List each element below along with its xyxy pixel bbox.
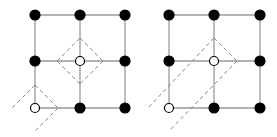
filled-node [75, 103, 85, 113]
lattice-diagram [0, 0, 277, 137]
open-node [210, 57, 219, 66]
right-panel [148, 10, 265, 130]
filled-node [120, 10, 130, 20]
dashed-line [170, 61, 237, 130]
filled-node [120, 103, 130, 113]
filled-node [75, 10, 85, 20]
filled-node [164, 56, 174, 66]
filled-node [120, 56, 130, 66]
left-panel [12, 10, 130, 131]
filled-node [209, 103, 219, 113]
filled-node [209, 10, 219, 20]
filled-node [255, 56, 265, 66]
open-node [76, 57, 85, 66]
filled-node [255, 103, 265, 113]
filled-node [255, 10, 265, 20]
open-node [165, 104, 174, 113]
filled-node [30, 56, 40, 66]
open-node [31, 104, 40, 113]
filled-node [30, 10, 40, 20]
filled-node [164, 10, 174, 20]
dashed-line [148, 38, 214, 108]
